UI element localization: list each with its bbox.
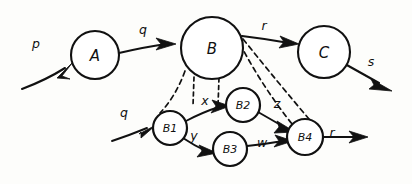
node-b4[interactable]: B4 [287,119,323,155]
edge-b1-to-b3 [183,138,217,157]
node-b2-label: B2 [236,99,251,112]
node-b3[interactable]: B3 [213,132,247,166]
node-b-label: B [207,40,217,58]
edge-a-to-b [119,38,176,53]
edge-label-r-b4: r [329,125,335,140]
node-b1-label: B1 [163,122,178,135]
node-b1[interactable]: B1 [153,111,187,145]
node-c[interactable]: C [298,26,350,78]
node-b[interactable]: B [181,17,243,79]
diagram-canvas: A B C B1 B2 B3 B4 p q r [0,0,412,184]
edge-label-z: z [273,96,281,111]
refine-tick-left-of-x [193,77,194,106]
node-b4-label: B4 [298,131,313,144]
edge-label-q-b1: q [120,105,128,120]
edge-label-p: p [31,36,40,51]
edge-label-w: w [257,135,268,150]
edge-label-x: x [200,93,209,108]
node-a-label: A [89,47,100,65]
node-b3-label: B3 [223,143,238,156]
refine-line-b-to-b1 [160,71,185,113]
edge-label-y: y [189,128,198,143]
edge-b-to-c [242,36,299,48]
edge-label-q-top: q [139,22,147,37]
edge-label-r-top: r [261,18,267,33]
node-c-label: C [319,44,330,62]
node-b2[interactable]: B2 [226,88,260,122]
edge-label-s: s [368,54,375,69]
dataflow-diagram: A B C B1 B2 B3 B4 p q r [0,0,412,184]
edge-input-p [22,62,73,89]
edge-input-q-b1 [112,125,156,141]
node-a[interactable]: A [71,31,119,79]
arrow-head-s [369,79,392,91]
